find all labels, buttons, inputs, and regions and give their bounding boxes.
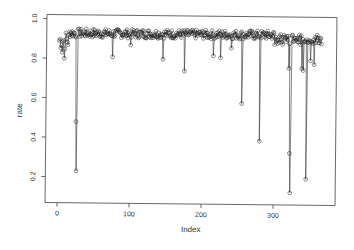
y-tick-label: 1.0 [31,13,38,23]
x-axis: 0100200300 [55,203,279,219]
series-points [56,27,324,195]
y-tick-label: 0.8 [30,53,37,63]
y-tick-label: 0.4 [30,132,37,142]
x-axis-label: Index [181,225,201,234]
y-axis: 0.20.40.60.81.0 [29,13,47,181]
y-tick-label: 0.2 [29,171,36,181]
x-tick-label: 200 [195,211,207,218]
y-tick-label: 0.6 [30,92,37,102]
x-tick-label: 100 [123,210,135,217]
series-line [58,29,322,194]
x-tick-label: 0 [55,210,59,217]
x-tick-label: 300 [267,212,279,219]
scatter-chart: 0100200300 0.20.40.60.81.0 Index rate [0,0,354,250]
y-axis-label: rate [15,103,24,117]
